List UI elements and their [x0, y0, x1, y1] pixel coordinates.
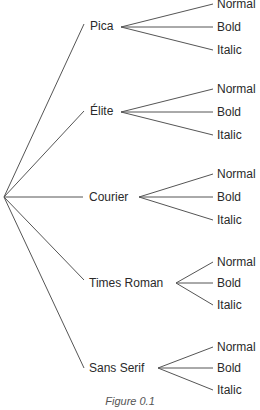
leaf-italic: Italic [217, 43, 242, 57]
branch-label-times-roman: Times Roman [89, 276, 163, 290]
leaf-bold: Bold [217, 361, 241, 375]
leaf-italic: Italic [217, 128, 242, 142]
leaf-normal: Normal [217, 0, 256, 11]
branch-label-elite: Élite [90, 104, 113, 118]
leaf-normal: Normal [217, 255, 256, 269]
leaf-bold: Bold [217, 276, 241, 290]
branch-label-courier: Courier [89, 190, 128, 204]
leaf-italic: Italic [217, 298, 242, 312]
leaf-normal: Normal [217, 82, 256, 96]
leaf-italic: Italic [217, 213, 242, 227]
leaf-bold: Bold [217, 105, 241, 119]
branch-label-sans-serif: Sans Serif [89, 361, 144, 375]
leaf-bold: Bold [217, 20, 241, 34]
leaf-bold: Bold [217, 190, 241, 204]
leaf-normal: Normal [217, 167, 256, 181]
branch-label-pica: Pica [90, 19, 113, 33]
leaf-normal: Normal [217, 340, 256, 354]
figure-caption: Figure 0.1 [0, 395, 260, 407]
